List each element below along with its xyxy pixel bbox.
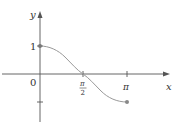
x-tick-label-pi-half-den: 2 (81, 89, 85, 97)
chart: y x 1 0 π 2 π (0, 0, 179, 127)
origin-label: 0 (30, 77, 36, 88)
x-axis-label: x (166, 81, 172, 92)
y-axis-arrow-icon (38, 11, 43, 18)
start-point (38, 44, 42, 48)
end-point (125, 100, 129, 104)
x-axis-arrow-icon (163, 72, 170, 77)
y-tick-label-one: 1 (30, 41, 36, 52)
x-tick-label-pi-half-num: π (79, 80, 85, 88)
y-axis-label: y (29, 9, 36, 20)
x-tick-label-pi: π (122, 82, 130, 92)
